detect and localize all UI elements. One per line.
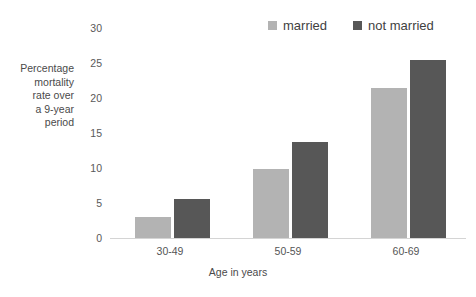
y-tick-label: 30 [68, 23, 102, 34]
bar-group-60-69 [352, 28, 460, 238]
bar-group-30-49 [116, 28, 224, 238]
y-tick-label: 15 [68, 128, 102, 139]
bar-group-50-59 [234, 28, 342, 238]
y-tick-label: 5 [68, 198, 102, 209]
y-tick-label: 0 [68, 233, 102, 244]
x-tick-label-30-49: 30-49 [110, 245, 230, 257]
y-tick-label: 25 [68, 58, 102, 69]
x-tick-label-60-69: 60-69 [346, 245, 466, 257]
x-axis-title: Age in years [0, 266, 476, 278]
bar-not-married-50-59[interactable] [292, 142, 328, 238]
y-tick-label: 10 [68, 163, 102, 174]
bar-married-50-59[interactable] [253, 169, 289, 238]
x-axis-line [110, 238, 466, 239]
y-axis-ticks: 0 5 10 15 20 25 30 [62, 0, 102, 297]
y-tick-label: 20 [68, 93, 102, 104]
x-tick-label-50-59: 50-59 [228, 245, 348, 257]
bar-married-30-49[interactable] [135, 217, 171, 238]
bar-chart: married not married Percentage mortality… [0, 0, 476, 297]
bar-not-married-30-49[interactable] [174, 199, 210, 238]
bar-not-married-60-69[interactable] [410, 60, 446, 238]
bar-married-60-69[interactable] [371, 88, 407, 239]
plot-area [110, 28, 466, 238]
